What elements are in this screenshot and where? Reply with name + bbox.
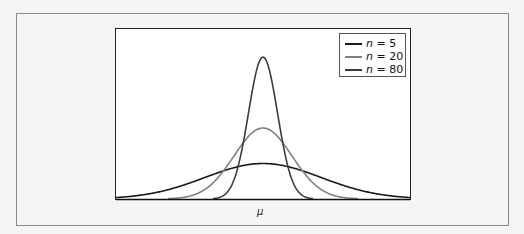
legend-line-n80 [345, 69, 362, 71]
legend-line-n20 [345, 56, 362, 58]
x-axis-label: μ [257, 206, 263, 217]
legend: n = 5 n = 20 n = 80 [339, 33, 406, 77]
legend-item-n20: n = 20 [345, 50, 403, 63]
legend-line-n5 [345, 43, 362, 45]
legend-item-n5: n = 5 [345, 37, 396, 50]
plot-area [0, 0, 524, 234]
legend-item-n80: n = 80 [345, 63, 403, 76]
